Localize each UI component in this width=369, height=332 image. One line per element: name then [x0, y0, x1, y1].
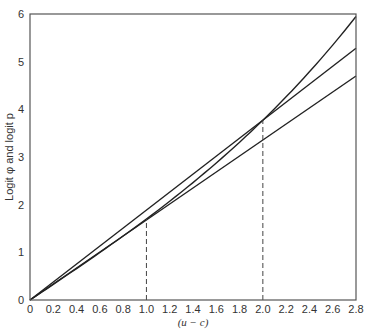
chart: 0123456 00.20.40.60.81.01.21.41.61.82.02…	[0, 0, 369, 332]
x-tick-label: 0.8	[115, 303, 130, 315]
y-tick-label: 5	[18, 56, 24, 68]
x-axis-ticks: 00.20.40.60.81.01.21.41.61.82.02.22.42.6…	[27, 303, 364, 315]
y-axis-ticks: 0123456	[18, 8, 24, 306]
x-tick-label: 2.2	[278, 303, 293, 315]
y-tick-label: 2	[18, 199, 24, 211]
x-tick-label: 1.8	[232, 303, 247, 315]
x-tick-label: 2.0	[255, 303, 270, 315]
x-tick-label: 1.4	[185, 303, 200, 315]
y-axis-label: Logit φ and logit p	[3, 113, 15, 201]
y-tick-label: 1	[18, 246, 24, 258]
y-tick-label: 3	[18, 151, 24, 163]
x-tick-label: 2.8	[348, 303, 363, 315]
series-lines	[30, 17, 356, 301]
y-tick-label: 6	[18, 8, 24, 20]
x-tick-label: 0.6	[92, 303, 107, 315]
x-tick-label: 2.4	[302, 303, 317, 315]
x-tick-label: 1.2	[162, 303, 177, 315]
x-axis-label: (u − c)	[178, 316, 209, 329]
x-tick-label: 0	[27, 303, 33, 315]
x-tick-label: 2.6	[325, 303, 340, 315]
straight-line	[30, 48, 356, 300]
curve-line	[30, 17, 356, 301]
plot-frame	[30, 14, 356, 300]
x-tick-label: 0.4	[69, 303, 84, 315]
y-tick-label: 4	[18, 103, 24, 115]
straight-line	[30, 76, 356, 300]
x-tick-label: 1.0	[139, 303, 154, 315]
x-tick-label: 1.6	[209, 303, 224, 315]
x-tick-label: 0.2	[46, 303, 61, 315]
y-tick-label: 0	[18, 294, 24, 306]
dashed-guides	[146, 120, 262, 300]
